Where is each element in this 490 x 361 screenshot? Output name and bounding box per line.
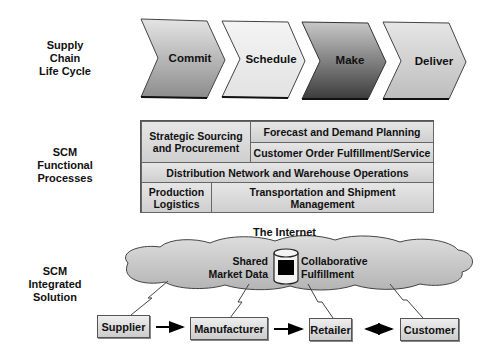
cell-line: Management (250, 198, 396, 210)
cell-line: Strategic Sourcing (149, 130, 242, 142)
entity-manufacturer: Manufacturer (190, 317, 268, 340)
cell-transportation-shipment: Transportation and Shipment Management (211, 182, 434, 213)
connector-supplier-cloud (131, 281, 168, 315)
internet-cloud (126, 236, 473, 290)
cell-forecast-demand-planning: Forecast and Demand Planning (250, 121, 434, 143)
cloud-line: Market Data (200, 268, 268, 281)
internet-title: The Internet (253, 226, 316, 239)
cloud-line: Fulfillment (301, 268, 368, 281)
cloud-line: Shared (200, 255, 268, 268)
cell-production-logistics: Production Logistics (141, 182, 212, 213)
stage-deliver-label: Deliver (399, 55, 469, 67)
entity-supplier: Supplier (97, 315, 150, 338)
cell-strategic-sourcing: Strategic Sourcing and Procurement (141, 121, 251, 163)
database-icon (274, 249, 298, 284)
entity-retailer: Retailer (309, 318, 352, 341)
cell-line: and Procurement (149, 142, 242, 154)
cell-line: Logistics (149, 198, 204, 210)
cell-customer-order-fulfillment: Customer Order Fulfillment/Service (250, 142, 434, 163)
functional-processes-table: Strategic Sourcing and Procurement Forec… (140, 120, 434, 213)
shared-market-data-label: Shared Market Data (200, 255, 268, 281)
connector-manufacturer-cloud (230, 284, 249, 318)
cell-distribution-network: Distribution Network and Warehouse Opera… (141, 162, 434, 183)
stage-make-label: Make (315, 54, 385, 66)
stage-schedule-label: Schedule (236, 53, 306, 65)
cell-line: Transportation and Shipment (250, 186, 396, 198)
cloud-line: Collaborative (301, 255, 368, 268)
collaborative-fulfillment-label: Collaborative Fulfillment (301, 255, 368, 281)
entity-customer: Customer (400, 318, 459, 341)
stage-commit-label: Commit (155, 52, 225, 64)
cell-line: Production (149, 186, 204, 198)
